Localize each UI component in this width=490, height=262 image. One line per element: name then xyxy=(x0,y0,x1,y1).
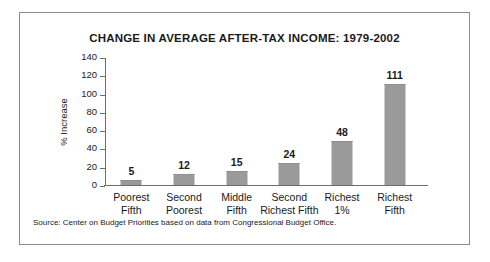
x-axis-category-label: RichestFifth xyxy=(362,191,428,216)
chart-title: CHANGE IN AVERAGE AFTER-TAX INCOME: 1979… xyxy=(20,32,469,44)
y-tick-mark xyxy=(100,186,105,187)
bar-value-label: 12 xyxy=(178,159,190,171)
bar-slot: 15 xyxy=(210,58,263,185)
bar xyxy=(226,171,247,185)
source-note: Source: Center on Budget Priorities base… xyxy=(33,218,336,227)
y-tick-label: 20 xyxy=(86,161,97,172)
bar-slot: 5 xyxy=(105,58,158,185)
plot-area: 020406080100120140 512152448111 PoorestF… xyxy=(105,58,421,186)
y-tick-label: 140 xyxy=(81,51,97,62)
bar xyxy=(384,84,405,185)
x-axis-category-line: Fifth xyxy=(362,204,428,217)
y-tick-label: 40 xyxy=(86,142,97,153)
bar-slot: 12 xyxy=(158,58,211,185)
bar-value-label: 111 xyxy=(386,69,402,81)
bar-value-label: 24 xyxy=(283,148,295,160)
bar xyxy=(173,174,194,185)
y-tick-label: 60 xyxy=(86,124,97,135)
y-tick-label: 0 xyxy=(92,179,97,190)
bar xyxy=(279,163,300,185)
bar xyxy=(121,180,142,185)
bar-value-label: 5 xyxy=(128,165,134,177)
bar-value-label: 15 xyxy=(231,156,243,168)
chart-frame: CHANGE IN AVERAGE AFTER-TAX INCOME: 1979… xyxy=(19,12,470,245)
bar-value-label: 48 xyxy=(336,126,348,138)
bar xyxy=(331,141,352,185)
bar-slot: 111 xyxy=(368,58,421,185)
x-axis-category-line: Richest xyxy=(362,191,428,204)
y-tick-label: 120 xyxy=(81,69,97,80)
bar-slot: 24 xyxy=(263,58,316,185)
x-axis-line xyxy=(104,185,428,186)
y-tick-label: 100 xyxy=(81,88,97,99)
y-tick-label: 80 xyxy=(86,106,97,117)
bar-slot: 48 xyxy=(316,58,369,185)
y-axis-title: % Increase xyxy=(58,58,70,186)
